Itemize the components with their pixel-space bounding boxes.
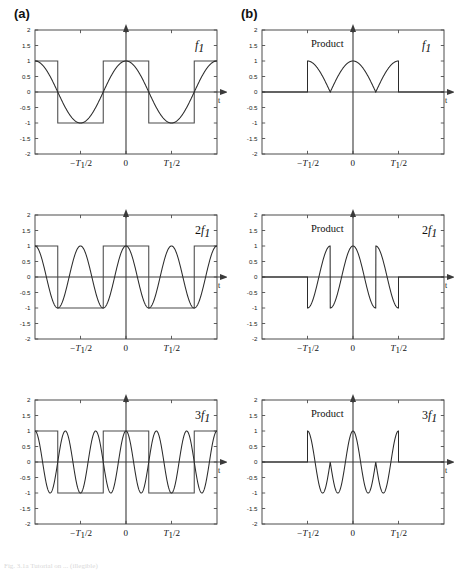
x-axis-label: t: [445, 96, 448, 105]
y-tick-label: 2: [27, 211, 31, 218]
y-tick-label: -1.5: [20, 320, 31, 327]
x-axis-arrow: [220, 459, 227, 465]
y-tick-label: 1.5: [249, 412, 258, 419]
y-tick-label: 1.5: [22, 412, 31, 419]
y-tick-label: 2: [254, 396, 258, 403]
signal-label: 3f1: [195, 408, 210, 425]
signal-label: 2f1: [195, 223, 210, 240]
x-axis-label: t: [218, 96, 221, 105]
y-tick-label: -2: [25, 520, 31, 527]
y-axis-arrow: [123, 394, 129, 402]
plot-a-row2: 21.510.50-0.5-1-1.5-2−T1/20T1/2t2f1: [8, 207, 227, 369]
x-tick-label-zero: 0: [351, 158, 356, 168]
y-tick-label: -0.5: [20, 104, 31, 111]
y-tick-label: -0.5: [247, 474, 258, 481]
y-tick-label: 1: [27, 57, 31, 64]
y-tick-label: 0: [254, 273, 258, 280]
x-tick-label-minus: −T1/2: [297, 528, 320, 540]
y-tick-label: 1.5: [22, 42, 31, 49]
plot-b-row1: 21.510.50-0.5-1-1.5-2−T1/20T1/2tProductf…: [235, 22, 454, 184]
y-tick-label: 2: [27, 396, 31, 403]
y-tick-label: -2: [252, 335, 258, 342]
y-tick-label: 1.5: [22, 227, 31, 234]
plot-a-row1: 21.510.50-0.5-1-1.5-2−T1/20T1/2tf1: [8, 22, 227, 184]
product-label: Product: [311, 38, 344, 49]
y-tick-label: 0: [254, 88, 258, 95]
y-tick-label: -0.5: [247, 289, 258, 296]
x-tick-label-minus: −T1/2: [297, 158, 320, 170]
x-tick-label-plus: T1/2: [391, 343, 408, 355]
x-axis-arrow: [220, 89, 227, 95]
x-tick-label-plus: T1/2: [391, 528, 408, 540]
x-axis-label: t: [445, 466, 448, 475]
x-tick-label-minus: −T1/2: [70, 343, 93, 355]
y-tick-label: -2: [25, 150, 31, 157]
product-label: Product: [311, 223, 344, 234]
signal-label: f1: [422, 38, 431, 55]
y-tick-label: -1.5: [20, 135, 31, 142]
y-tick-label: 1: [254, 242, 258, 249]
x-tick-label-zero: 0: [124, 528, 129, 538]
y-tick-label: 0.5: [249, 443, 258, 450]
y-tick-label: -1.5: [247, 135, 258, 142]
x-axis-arrow: [220, 274, 227, 280]
y-tick-label: 1: [254, 57, 258, 64]
x-tick-label-minus: −T1/2: [70, 158, 93, 170]
y-tick-label: -1: [25, 489, 31, 496]
y-tick-label: 2: [254, 26, 258, 33]
y-tick-label: 0.5: [22, 73, 31, 80]
y-tick-label: -1: [25, 119, 31, 126]
y-tick-label: -0.5: [20, 289, 31, 296]
signal-label: f1: [195, 38, 204, 55]
y-tick-label: 0.5: [22, 443, 31, 450]
y-tick-label: 0.5: [249, 73, 258, 80]
x-axis-arrow: [447, 89, 454, 95]
y-tick-label: 0: [27, 458, 31, 465]
y-tick-label: 1: [254, 427, 258, 434]
x-tick-label-zero: 0: [124, 343, 129, 353]
x-axis-arrow: [447, 459, 454, 465]
y-tick-label: 0.5: [249, 258, 258, 265]
y-tick-label: -1: [252, 304, 258, 311]
y-axis-arrow: [123, 209, 129, 217]
y-tick-label: -2: [25, 335, 31, 342]
x-tick-label-plus: T1/2: [164, 528, 181, 540]
signal-label: 3f1: [422, 408, 437, 425]
y-tick-label: 2: [254, 211, 258, 218]
y-tick-label: 0: [27, 88, 31, 95]
y-axis-arrow: [350, 24, 356, 32]
y-tick-label: 1: [27, 427, 31, 434]
x-tick-label-zero: 0: [351, 343, 356, 353]
product-label: Product: [311, 408, 344, 419]
y-tick-label: 1.5: [249, 227, 258, 234]
y-tick-label: -1: [252, 119, 258, 126]
y-tick-label: 1: [27, 242, 31, 249]
y-tick-label: 0.5: [22, 258, 31, 265]
y-tick-label: 2: [27, 26, 31, 33]
y-tick-label: -1.5: [20, 505, 31, 512]
x-axis-arrow: [447, 274, 454, 280]
y-tick-label: -1: [252, 489, 258, 496]
x-tick-label-plus: T1/2: [391, 158, 408, 170]
x-tick-label-minus: −T1/2: [297, 343, 320, 355]
panel-a-label: (a): [14, 6, 30, 21]
y-tick-label: -0.5: [20, 474, 31, 481]
x-axis-label: t: [445, 281, 448, 290]
x-tick-label-minus: −T1/2: [70, 528, 93, 540]
y-tick-label: 1.5: [249, 42, 258, 49]
x-tick-label-zero: 0: [351, 528, 356, 538]
y-tick-label: -2: [252, 150, 258, 157]
signal-label: 2f1: [422, 223, 437, 240]
y-tick-label: -1.5: [247, 320, 258, 327]
y-axis-arrow: [350, 394, 356, 402]
x-tick-label-plus: T1/2: [164, 343, 181, 355]
y-axis-arrow: [123, 24, 129, 32]
x-tick-label-zero: 0: [124, 158, 129, 168]
plot-b-row3: 21.510.50-0.5-1-1.5-2−T1/20T1/2tProduct3…: [235, 392, 454, 554]
figure-caption: Fig. 3.1a Tutorial on ... (illegible): [4, 562, 304, 574]
y-tick-label: 0: [27, 273, 31, 280]
x-tick-label-plus: T1/2: [164, 158, 181, 170]
y-axis-arrow: [350, 209, 356, 217]
x-axis-label: t: [218, 281, 221, 290]
y-tick-label: -0.5: [247, 104, 258, 111]
